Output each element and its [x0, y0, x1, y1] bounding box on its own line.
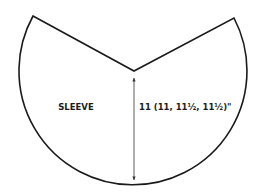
dimension-label: 11 (11, 11½, 11½)" [139, 102, 231, 112]
sleeve-outline [19, 16, 247, 185]
sleeve-schematic: SLEEVE 11 (11, 11½, 11½)" [0, 0, 265, 195]
piece-label: SLEEVE [58, 102, 94, 112]
